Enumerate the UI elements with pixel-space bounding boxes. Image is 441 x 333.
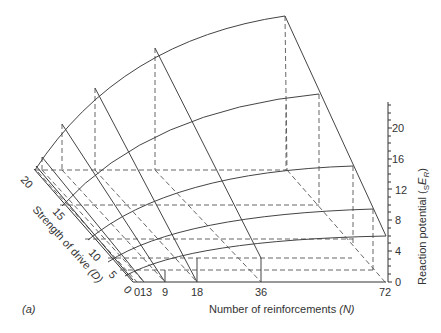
svg-text:20: 20 — [19, 173, 36, 190]
svg-text:0: 0 — [122, 283, 135, 296]
svg-text:72: 72 — [379, 286, 391, 298]
svg-text:5: 5 — [107, 268, 120, 281]
n-axis-label: Number of reinforcements (N) — [209, 303, 355, 315]
svg-text:36: 36 — [255, 286, 267, 298]
reaction-axis-label: Reaction potential (SER) — [416, 168, 431, 285]
svg-text:3: 3 — [146, 286, 152, 298]
base-grid-dashed — [35, 16, 385, 282]
surface-lines-constant-n — [42, 16, 386, 282]
d-axis-label: Strength of drive (D) — [31, 203, 106, 285]
svg-text:9: 9 — [162, 286, 168, 298]
n-axis-ticks: 0 1 3 9 18 36 72 — [134, 286, 391, 298]
svg-text:4: 4 — [395, 245, 401, 257]
reaction-axis-tick-labels: 0 4 8 12 16 20 — [392, 122, 407, 288]
surface-curves-constant-d — [35, 16, 386, 276]
reaction-potential-surface-diagram: 0 1 3 9 18 36 72 0 5 10 15 20 Strength o… — [0, 0, 441, 333]
svg-text:0: 0 — [395, 276, 401, 288]
svg-text:16: 16 — [392, 153, 404, 165]
svg-text:20: 20 — [392, 122, 404, 134]
figure-label: (a) — [22, 303, 36, 315]
svg-text:8: 8 — [395, 214, 401, 226]
svg-text:18: 18 — [191, 286, 203, 298]
svg-text:12: 12 — [395, 184, 407, 196]
